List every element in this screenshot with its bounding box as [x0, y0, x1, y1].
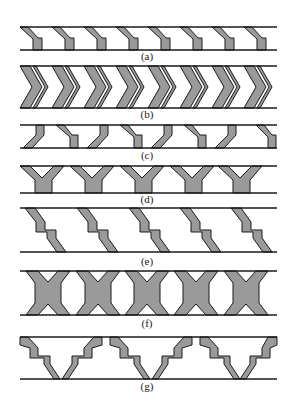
panel-f: (f) — [20, 271, 277, 330]
panel-b: (b) — [20, 66, 277, 121]
panel-e-cells — [25, 208, 272, 252]
panel-d: (d) — [20, 166, 277, 206]
lattice-core-diagram: (a) (b) — [0, 0, 294, 416]
panel-b-label: (b) — [141, 108, 154, 121]
panel-d-cells — [20, 166, 262, 193]
panel-g-cells — [20, 337, 277, 379]
panel-a-label: (a) — [141, 50, 154, 63]
panel-g-label: (g) — [141, 380, 154, 393]
panel-b-cells — [20, 66, 272, 108]
panel-f-cells — [26, 271, 268, 315]
panel-c: (c) — [20, 125, 277, 162]
panel-e-label: (e) — [141, 255, 154, 268]
panel-a: (a) — [20, 27, 277, 63]
panel-c-label: (c) — [141, 149, 154, 162]
panel-g: (g) — [20, 337, 277, 393]
panel-a-cells — [20, 27, 266, 50]
panel-e: (e) — [20, 208, 277, 268]
panel-c-cells — [23, 125, 276, 148]
panel-f-label: (f) — [142, 317, 153, 330]
panel-d-label: (d) — [141, 193, 154, 206]
